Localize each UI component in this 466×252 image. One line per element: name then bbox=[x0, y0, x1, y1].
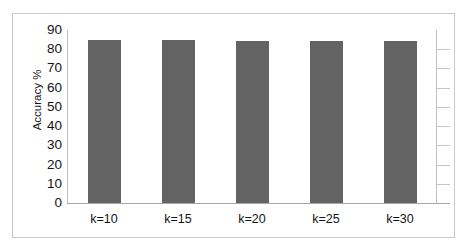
y-axis-tick-label: 80 bbox=[36, 42, 62, 56]
bar bbox=[88, 40, 121, 203]
x-axis-tick-label: k=20 bbox=[238, 209, 265, 229]
x-axis-tick-label: k=15 bbox=[164, 209, 191, 229]
bars-layer bbox=[67, 30, 437, 203]
y-axis-tick-label: 10 bbox=[36, 177, 62, 191]
y-axis-tick-labels: 9080706050403020100 bbox=[36, 0, 62, 252]
x-axis-tick-label: k=10 bbox=[90, 209, 117, 229]
bar bbox=[162, 40, 195, 203]
x-axis-tick-label: k=30 bbox=[386, 209, 413, 229]
x-axis-tick-label: k=25 bbox=[312, 209, 339, 229]
bar bbox=[310, 41, 343, 203]
bar bbox=[236, 41, 269, 203]
y-axis-tick-label: 70 bbox=[36, 62, 62, 76]
bar bbox=[384, 41, 417, 203]
bar-chart: Accuracy % 9080706050403020100 k=10k=15k… bbox=[0, 0, 466, 252]
x-axis-line bbox=[67, 203, 450, 204]
y-axis-tick-label: 0 bbox=[36, 196, 62, 210]
y-axis-tick-label: 50 bbox=[36, 100, 62, 114]
y-axis-tick-label: 30 bbox=[36, 139, 62, 153]
y-axis-tick-label: 60 bbox=[36, 81, 62, 95]
y-axis-tick-label: 90 bbox=[36, 23, 62, 37]
x-axis-tick-labels: k=10k=15k=20k=25k=30 bbox=[67, 209, 437, 229]
y-axis-tick-label: 40 bbox=[36, 119, 62, 133]
y-axis-tick-label: 20 bbox=[36, 158, 62, 172]
